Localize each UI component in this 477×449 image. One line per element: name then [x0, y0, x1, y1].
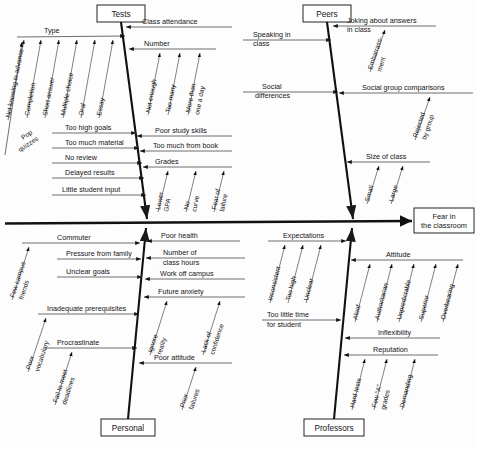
cause-tests-type: Type	[17, 26, 125, 37]
cause-personal-pressure-from-family: Pressure from family	[57, 249, 141, 259]
cause-personal-number-of-class-hours: Number of class hours	[146, 248, 245, 267]
cause-tests-poor-study-skills: Poor study skills	[137, 126, 232, 136]
twig-social-diff-label-1: Social	[262, 82, 282, 91]
twig-poor-study-skills-label: Poor study skills	[155, 126, 207, 135]
cause-personal-commuter: Commuter	[22, 233, 140, 243]
twig-future-anxiety-label: Future anxiety	[158, 287, 204, 296]
twig-expectations-label: Expectations	[283, 231, 325, 240]
cause-personal-work-off-campus: Work off campus	[145, 269, 245, 279]
twig-size-of-class-label: Size of class	[366, 152, 407, 161]
twig-procrastinate-label: Procrastinate	[57, 338, 99, 347]
sprig-label-authoritarian: Authoritarian	[373, 282, 389, 320]
sprig-label-essay: Essay	[95, 97, 106, 117]
twig-inflexibility-label: Inflexibility	[378, 328, 412, 337]
twig-inadequate-prereq-label: Inadequate prerequisites	[47, 304, 127, 313]
personal-box-label: Personal	[112, 424, 144, 433]
cause-tests-number: Number	[129, 39, 216, 49]
cause-professors-attitude: Attitude	[351, 250, 463, 260]
cause-peers-social-differences: Social differences	[243, 82, 338, 100]
category-box-professors[interactable]: Professors	[304, 419, 364, 436]
twig-type-label: Type	[44, 26, 60, 35]
sprigs-professors-attitude: Aloof Authoritarian Unpredictable Superi…	[351, 264, 458, 322]
twig-too-little-label-1: Too little time	[267, 310, 309, 319]
sprig-label-hard-tests: Hard tests	[348, 377, 362, 409]
sprig-label-lack-conf-2: confidence	[208, 322, 225, 355]
sprig-label-no-curve-2: curve	[190, 195, 200, 212]
twig-commuter-label: Commuter	[57, 233, 91, 242]
sprigs-peers-joking: Embarrass- ment	[366, 30, 386, 72]
twig-joking-label-2: in class	[347, 25, 371, 34]
sprigs-professors-reputation: Hard tests Few "A" grades Demanding	[348, 359, 415, 410]
twig-joking-label-1: Joking about answers	[347, 16, 417, 25]
twig-social-group-label: Social group comparisons	[362, 83, 445, 92]
sprig-label-prior-2: failures	[187, 387, 200, 410]
tests-box-label: Tests	[111, 10, 130, 19]
cause-personal-procrastinate: Procrastinate	[45, 338, 137, 348]
twig-poor-attitude-label: Poor attitude	[154, 353, 195, 362]
sprig-label-small: Small	[363, 184, 374, 202]
cause-personal-unclear-goals: Unclear goals	[57, 267, 142, 277]
sprig-label-too-high: Too high	[284, 275, 298, 301]
sprig-label-oral: Oral	[77, 102, 86, 116]
sprigs-peers-social-group: Rejected by group	[411, 97, 436, 141]
sprigs-personal-poor-attitude: Prior failures	[178, 367, 200, 410]
twig-too-high-goals-label: Too high goals	[65, 123, 112, 132]
twig-too-much-from-book-label: Too much from book	[153, 141, 219, 150]
peers-box-label: Peers	[316, 10, 337, 19]
fishbone-svg: Fear in the classroom Tests Peers Person…	[0, 0, 477, 449]
cause-professors-too-little-time: Too little time for student	[262, 310, 341, 329]
bone-professors	[334, 228, 352, 419]
twig-number-of-label-1: Number of	[163, 248, 197, 257]
effect-head-box[interactable]: Fear in the classroom	[414, 208, 474, 233]
effect-label-line2: the classroom	[421, 221, 467, 230]
cause-peers-size-of-class: Size of class	[347, 152, 430, 162]
cause-tests-too-high-goals: Too high goals	[52, 123, 136, 133]
sprig-label-overbearing: Overbearing	[439, 283, 456, 320]
twig-pressure-family-label: Pressure from family	[66, 249, 132, 258]
twig-speaking-label-2: class	[253, 39, 270, 48]
sprigs-professors-expectations: Inconsistent Too high Unclear	[266, 245, 321, 303]
cause-personal-poor-attitude: Poor attitude	[139, 353, 232, 363]
twig-speaking-label-1: Speaking in	[253, 30, 291, 39]
sprigs-tests-grades: Lower GPA No curve Fear of failure	[154, 171, 228, 212]
cause-professors-expectations: Expectations	[268, 231, 346, 241]
cause-tests-grades: Grades	[143, 157, 232, 167]
effect-label-line1: Fear in	[432, 212, 455, 221]
category-box-tests[interactable]: Tests	[97, 5, 145, 22]
sprigs-peers-size-of-class: Small Large	[363, 166, 403, 204]
cause-peers-social-group-comparisons: Social group comparisons	[339, 83, 473, 93]
twig-no-review-label: No review	[65, 153, 98, 162]
spine-line	[5, 221, 412, 224]
twig-number-of-label-2: class hours	[163, 258, 200, 267]
twig-too-little-label-2: for student	[267, 320, 301, 329]
cause-tests-too-much-material: Too much material	[52, 138, 139, 148]
sprig-label-inconsistent: Inconsistent	[266, 265, 281, 301]
cause-tests-class-attendance: Class attendance	[126, 17, 232, 27]
sprigs-tests-number: Not enough Too many More than one a day	[144, 53, 207, 115]
twig-too-much-material-label: Too much material	[65, 138, 124, 147]
professors-box-label: Professors	[314, 424, 353, 433]
category-box-peers[interactable]: Peers	[303, 5, 351, 22]
twig-grades-label: Grades	[155, 157, 179, 166]
sprig-label-not-knowing: Not knowing in advance	[4, 48, 25, 119]
twig-reputation-label: Reputation	[373, 345, 408, 354]
twig-class-attendance-label: Class attendance	[142, 17, 198, 26]
twig-number-label: Number	[144, 39, 170, 48]
twig-social-diff-label-2: differences	[255, 91, 290, 100]
sprig-label-demanding: Demanding	[398, 374, 414, 409]
sprig-label-not-enough: Not enough	[144, 78, 158, 113]
sprig-label-lower-2: GPA	[162, 197, 172, 212]
cause-tests-little-student-input: Little student input	[52, 185, 146, 195]
twig-work-off-campus-label: Work off campus	[160, 269, 214, 278]
twig-poor-health-label: Poor health	[161, 231, 198, 240]
cause-professors-inflexibility: Inflexibility	[345, 328, 440, 338]
sprig-label-too-many: Too many	[164, 83, 177, 113]
spine-group	[5, 221, 412, 224]
cause-personal-poor-health: Poor health	[147, 231, 240, 241]
sprig-label-multiple-choice: Multiple choice	[59, 72, 75, 117]
bone-tests	[121, 22, 147, 219]
category-box-personal[interactable]: Personal	[101, 419, 155, 436]
sprigs-personal-commuter: Few campus friends	[8, 247, 30, 300]
sprig-label-no-curve-1: No	[182, 200, 191, 210]
sprigs-personal-inadequate-prereq: Poor vocabulary	[24, 318, 51, 373]
